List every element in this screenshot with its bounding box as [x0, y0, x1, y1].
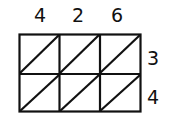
right-digit-2: 4: [147, 86, 159, 108]
top-digit-2: 2: [72, 4, 84, 26]
diagonal-r1c2: [60, 35, 99, 73]
diagonal-r1c1: [20, 35, 59, 73]
diagonal-r1c3: [100, 35, 140, 73]
grid: [19, 34, 141, 112]
diagonal-r2c3: [100, 75, 140, 111]
top-digit-3: 6: [111, 4, 123, 26]
top-digit-1: 4: [34, 4, 46, 26]
diagonal-r2c2: [60, 75, 99, 111]
lattice-diagram: 4 2 6 3 4: [0, 0, 174, 128]
right-digit-1: 3: [147, 47, 159, 69]
diagonal-r2c1: [20, 75, 59, 111]
